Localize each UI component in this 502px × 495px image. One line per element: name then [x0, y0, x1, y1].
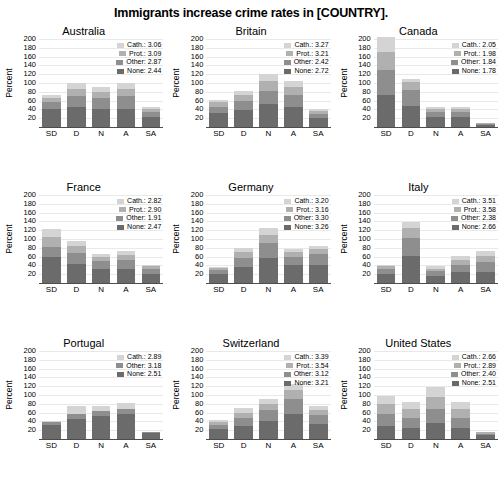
legend-item[interactable]: Other: 1.84 [451, 58, 496, 67]
bar-sa[interactable] [476, 432, 495, 439]
bar-d[interactable] [402, 222, 421, 283]
bar-d[interactable] [234, 91, 253, 127]
legend-item[interactable]: Cath.: 2.66 [451, 353, 496, 362]
y-tick-label: 20 [362, 115, 370, 121]
bar-a[interactable] [117, 251, 136, 283]
bar-a[interactable] [284, 384, 303, 439]
bar-d[interactable] [234, 248, 253, 283]
legend-item[interactable]: Cath.: 2.82 [116, 197, 161, 206]
bar-d[interactable] [234, 408, 253, 439]
bar-n[interactable] [92, 254, 111, 283]
bar-d[interactable] [67, 83, 86, 127]
bar-segment-other [451, 418, 470, 428]
legend-item[interactable]: Cath.: 3.06 [116, 41, 161, 50]
bar-n[interactable] [426, 266, 445, 283]
bar-sd[interactable] [42, 95, 61, 127]
bar-sd[interactable] [377, 265, 396, 283]
bar-d[interactable] [67, 406, 86, 439]
legend-item[interactable]: None: 1.78 [451, 67, 496, 76]
legend-item[interactable]: Cath.: 2.05 [451, 41, 496, 50]
legend-item[interactable]: Prot.: 2.90 [116, 206, 161, 215]
bar-segment-other [309, 415, 328, 424]
bar-sa[interactable] [476, 251, 495, 283]
bar-sd[interactable] [209, 100, 228, 127]
legend-item[interactable]: Cath.: 3.20 [284, 197, 329, 206]
y-tick-label: 20 [362, 271, 370, 277]
y-tick-label: 160 [358, 366, 371, 372]
legend-item[interactable]: Other: 3.18 [116, 362, 161, 371]
legend-item[interactable]: None: 2.47 [116, 223, 161, 232]
legend-item[interactable]: None: 2.51 [451, 379, 496, 388]
legend-item[interactable]: Prot.: 3.09 [116, 50, 161, 59]
legend-item[interactable]: Prot.: 1.98 [451, 50, 496, 59]
bar-sa[interactable] [309, 246, 328, 283]
bar-n[interactable] [92, 87, 111, 127]
bar-d[interactable] [67, 241, 86, 283]
legend-item[interactable]: Other: 2.38 [451, 214, 496, 223]
legend-label: Other: 2.87 [126, 58, 161, 67]
bar-n[interactable] [259, 228, 278, 283]
legend-item[interactable]: Other: 2.40 [451, 370, 496, 379]
bar-sd[interactable] [209, 420, 228, 439]
bar-a[interactable] [117, 403, 136, 439]
bar-n[interactable] [426, 107, 445, 127]
y-axis-ticks: 20406080100120140160180200 [351, 351, 371, 439]
legend-item[interactable]: Prot.: 3.58 [451, 206, 496, 215]
legend-item[interactable]: Other: 1.91 [116, 214, 161, 223]
bar-sa[interactable] [142, 265, 161, 283]
bar-d[interactable] [402, 79, 421, 127]
x-tick-label: N [92, 129, 111, 138]
bar-a[interactable] [117, 83, 136, 127]
x-tick-label: SA [142, 129, 161, 138]
bar-a[interactable] [451, 107, 470, 127]
bar-d[interactable] [402, 402, 421, 439]
bar-n[interactable] [92, 406, 111, 439]
bar-sa[interactable] [476, 123, 495, 127]
legend: Cath.: 2.82Prot.: 2.90Other: 1.91None: 2… [116, 197, 161, 231]
bar-sd[interactable] [42, 229, 61, 283]
legend-item[interactable]: Other: 3.30 [284, 214, 329, 223]
bar-sa[interactable] [142, 107, 161, 127]
bar-a[interactable] [284, 249, 303, 283]
legend-item[interactable]: None: 2.51 [116, 370, 161, 379]
chart-panel-germany: GermanyPercent20406080100120140160180200… [167, 178, 334, 334]
bar-n[interactable] [259, 399, 278, 439]
legend-item[interactable]: None: 2.72 [284, 67, 329, 76]
legend-item[interactable]: Cath.: 3.27 [284, 41, 329, 50]
legend-label: Other: 3.12 [294, 370, 329, 379]
bar-sd[interactable] [42, 421, 61, 439]
y-tick-label: 140 [358, 374, 371, 380]
bar-a[interactable] [284, 81, 303, 127]
bar-segment-none [259, 104, 278, 127]
legend-item[interactable]: Cath.: 3.51 [451, 197, 496, 206]
y-axis-ticks: 20406080100120140160180200 [16, 39, 36, 127]
x-tick-label: SD [377, 441, 396, 450]
y-axis-label: Percent [171, 209, 181, 269]
bar-sa[interactable] [142, 432, 161, 439]
legend-item[interactable]: Other: 3.12 [284, 370, 329, 379]
bar-sd[interactable] [209, 267, 228, 283]
legend-item[interactable]: None: 2.66 [451, 223, 496, 232]
legend-item[interactable]: Prot.: 3.54 [284, 362, 329, 371]
bar-a[interactable] [451, 402, 470, 439]
legend-item[interactable]: Prot.: 3.21 [284, 50, 329, 59]
bar-n[interactable] [426, 387, 445, 439]
bar-sd[interactable] [377, 37, 396, 127]
legend-item[interactable]: Cath.: 2.89 [116, 353, 161, 362]
legend-item[interactable]: None: 3.26 [284, 223, 329, 232]
bar-a[interactable] [451, 256, 470, 283]
legend-item[interactable]: None: 3.21 [284, 379, 329, 388]
legend-item[interactable]: Other: 2.42 [284, 58, 329, 67]
legend-item[interactable]: Prot.: 3.16 [284, 206, 329, 215]
legend-item[interactable]: Other: 2.87 [116, 58, 161, 67]
legend-item[interactable]: Prot.: 2.89 [451, 362, 496, 371]
legend: Cath.: 2.66Prot.: 2.89Other: 2.40None: 2… [451, 353, 496, 387]
bar-n[interactable] [259, 74, 278, 127]
legend-item[interactable]: Cath.: 3.39 [284, 353, 329, 362]
bar-sa[interactable] [309, 109, 328, 127]
bar-sa[interactable] [309, 406, 328, 439]
legend-item[interactable]: None: 2.44 [116, 67, 161, 76]
y-tick-label: 80 [195, 401, 203, 407]
bar-sd[interactable] [377, 396, 396, 439]
y-tick-label: 180 [23, 201, 36, 207]
